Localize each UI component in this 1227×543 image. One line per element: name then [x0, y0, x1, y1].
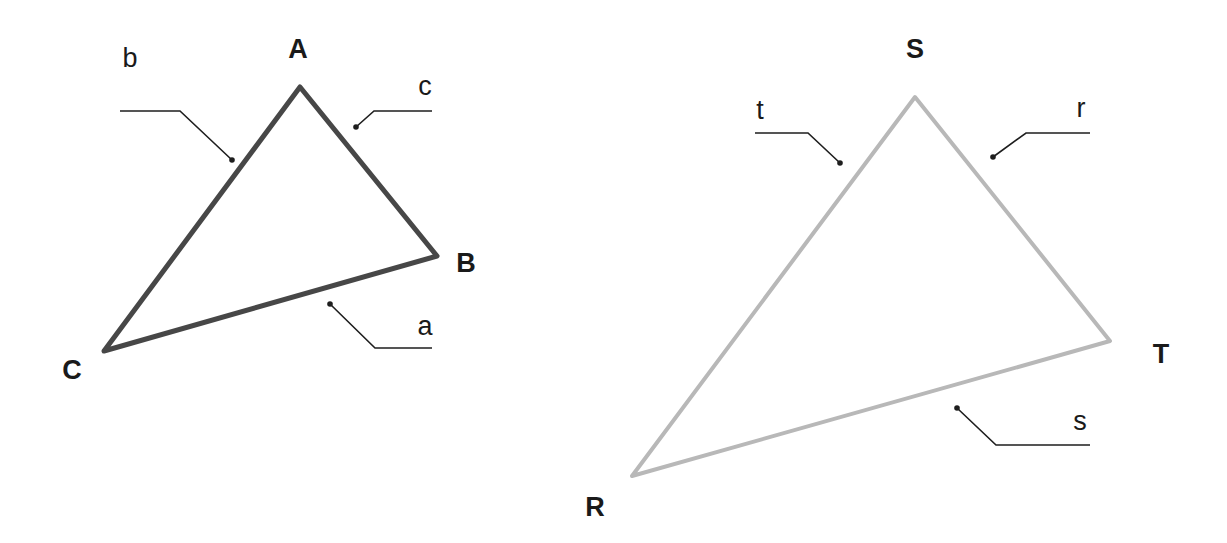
triangle-abc-outline: [104, 87, 437, 351]
side-label-a: a: [417, 311, 433, 341]
vertex-label-c: C: [62, 355, 82, 385]
leader-line-c: [356, 111, 432, 127]
triangle-diagram: A B C b c a S T R t r s: [0, 0, 1227, 543]
leader-dot-r: [990, 154, 996, 160]
leader-dot-s: [954, 405, 960, 411]
vertex-label-r: R: [585, 492, 605, 522]
leader-dot-b: [229, 157, 235, 163]
triangle-abc: A B C b c a: [62, 34, 476, 385]
side-label-s: s: [1073, 406, 1087, 436]
side-label-b: b: [122, 43, 137, 73]
leader-line-t: [755, 133, 840, 163]
leader-line-s: [957, 408, 1090, 445]
side-label-r: r: [1077, 93, 1086, 123]
vertex-label-s: S: [906, 34, 924, 64]
leader-dot-a: [327, 301, 333, 307]
leader-dot-t: [837, 160, 843, 166]
leader-line-b: [120, 111, 232, 160]
leader-dot-c: [353, 124, 359, 130]
vertex-label-a: A: [288, 34, 308, 64]
triangle-rst: S T R t r s: [585, 34, 1170, 522]
vertex-label-t: T: [1153, 339, 1170, 369]
side-label-c: c: [418, 71, 432, 101]
triangle-rst-outline: [632, 97, 1110, 476]
leader-line-r: [993, 133, 1090, 157]
side-label-t: t: [756, 95, 764, 125]
vertex-label-b: B: [456, 248, 476, 278]
